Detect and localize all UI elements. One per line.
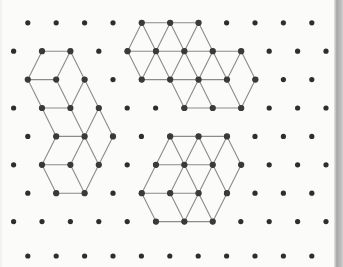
- shape-edge: [199, 23, 213, 51]
- lattice-dot: [323, 105, 328, 110]
- shape-edge: [213, 51, 227, 79]
- shape-edge: [184, 80, 198, 108]
- shape-vertex-dot: [181, 219, 187, 225]
- shape-vertex-dot: [181, 48, 187, 54]
- shape-edge: [241, 80, 255, 108]
- shape-edge: [142, 51, 156, 79]
- shape-edge: [184, 193, 198, 221]
- lattice-dot: [196, 253, 201, 258]
- lattice-dot: [281, 20, 286, 25]
- shape-vertex-dot: [167, 190, 173, 196]
- lattice-dot: [82, 253, 87, 258]
- lattice-dot: [309, 191, 314, 196]
- shape-vertex-dot: [210, 219, 216, 225]
- shape-edge: [99, 108, 113, 136]
- lattice-dot: [54, 20, 59, 25]
- shape-edge: [199, 80, 213, 108]
- lattice-dot: [110, 191, 115, 196]
- lattice-dot: [11, 49, 16, 54]
- lattice-dot: [139, 253, 144, 258]
- lattice-dot: [25, 134, 30, 139]
- shape-edge: [142, 165, 156, 193]
- dot-grid-figure: [0, 0, 343, 267]
- shape-edge: [28, 51, 42, 79]
- shape-edge: [85, 165, 99, 193]
- lattice-dot: [224, 20, 229, 25]
- shape-edge: [170, 23, 184, 51]
- shape-edge: [142, 193, 156, 221]
- shape-vertex-dot: [153, 219, 159, 225]
- shape-edge: [170, 136, 184, 164]
- lattice-dot: [96, 219, 101, 224]
- shape-edge: [199, 193, 213, 221]
- lattice-dot: [167, 253, 172, 258]
- shape-edge: [184, 51, 198, 79]
- shape-vertex-dot: [196, 190, 202, 196]
- lattice-dot: [323, 219, 328, 224]
- shape-edge: [42, 165, 56, 193]
- shape-vertex-dot: [224, 190, 230, 196]
- shape-edge: [85, 80, 99, 108]
- shape-vertex-dot: [25, 77, 31, 83]
- lattice-dot: [25, 191, 30, 196]
- shape-edge: [227, 51, 241, 79]
- shape-edge: [241, 51, 255, 79]
- shape-vertex-dot: [67, 162, 73, 168]
- shape-vertices-layer: [25, 20, 259, 225]
- shape-vertex-dot: [53, 190, 59, 196]
- shape-edge: [184, 165, 198, 193]
- shape-edge: [156, 23, 170, 51]
- shape-edge: [70, 136, 84, 164]
- shape-edge: [70, 108, 84, 136]
- shape-vertex-dot: [167, 77, 173, 83]
- lattice-dot: [281, 134, 286, 139]
- lattice-dot: [54, 253, 59, 258]
- shape-vertex-dot: [224, 77, 230, 83]
- shape-edge: [128, 51, 142, 79]
- lattice-dot: [309, 253, 314, 258]
- lattice-dot: [267, 49, 272, 54]
- shape-edge: [70, 51, 84, 79]
- shape-edge: [170, 165, 184, 193]
- lattice-dot: [110, 77, 115, 82]
- lattice-dot: [11, 219, 16, 224]
- shape-vertex-dot: [110, 133, 116, 139]
- lattice-dot: [281, 77, 286, 82]
- shape-edge: [184, 23, 198, 51]
- shape-vertex-dot: [67, 105, 73, 111]
- shape-vertex-dot: [82, 190, 88, 196]
- shape-vertex-dot: [53, 77, 59, 83]
- lattice-dot: [267, 219, 272, 224]
- shape-edge: [199, 136, 213, 164]
- shape-vertex-dot: [96, 162, 102, 168]
- shape-edge: [227, 165, 241, 193]
- shape-vertex-dot: [167, 133, 173, 139]
- shape-vertex-dot: [210, 105, 216, 111]
- shape-edge: [56, 80, 70, 108]
- shape-edge: [70, 80, 84, 108]
- lattice-dot: [281, 191, 286, 196]
- shape-vertex-dot: [96, 105, 102, 111]
- shape-vertex-dot: [82, 77, 88, 83]
- lattice-dot: [252, 134, 257, 139]
- lattice-dot: [309, 20, 314, 25]
- shape-vertex-dot: [252, 77, 258, 83]
- lattice-dot: [39, 219, 44, 224]
- shape-vertex-dot: [139, 77, 145, 83]
- shape-vertex-dot: [196, 20, 202, 26]
- shape-vertex-dot: [224, 133, 230, 139]
- shape-vertex-dot: [196, 77, 202, 83]
- shape-edge: [56, 51, 70, 79]
- lattice-dot: [252, 253, 257, 258]
- shape-vertex-dot: [39, 105, 45, 111]
- shape-edge: [99, 136, 113, 164]
- shape-edge: [213, 136, 227, 164]
- shape-edge: [213, 165, 227, 193]
- shape-edge: [85, 108, 99, 136]
- shape-vertex-dot: [139, 190, 145, 196]
- lattice-dot: [295, 219, 300, 224]
- shape-vertex-dot: [39, 162, 45, 168]
- shape-edge: [85, 136, 99, 164]
- shape-vertex-dot: [67, 48, 73, 54]
- shape-edge: [213, 193, 227, 221]
